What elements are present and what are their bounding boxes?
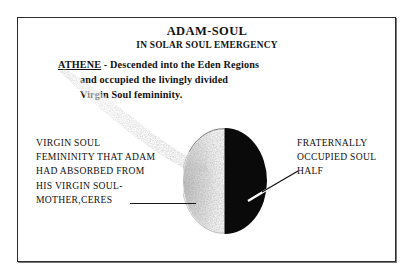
- leader-line-right: [240, 165, 302, 207]
- label-left-line-1: VIRGIN SOUL: [36, 136, 176, 150]
- label-fraternally-occupied-soul-half: FRATERNALLY OCCUPIED SOUL HALF: [297, 136, 397, 179]
- label-left-line-2: FEMININITY THAT ADAM: [36, 150, 176, 164]
- page-subtitle: IN SOLAR SOUL EMERGENCY: [0, 39, 414, 51]
- leader-line-left: [130, 203, 196, 204]
- page-title: ADAM-SOUL: [0, 24, 414, 38]
- diagram-page: ADAM-SOUL IN SOLAR SOUL EMERGENCY ATHENE…: [0, 0, 414, 279]
- label-left-line-4: HIS VIRGIN SOUL-: [36, 179, 176, 193]
- label-left-line-3: HAD ABSORBED FROM: [36, 164, 176, 178]
- label-right-line-3: HALF: [297, 164, 397, 178]
- label-right-line-1: FRATERNALLY: [297, 136, 397, 150]
- label-right-line-2: OCCUPIED SOUL: [297, 150, 397, 164]
- label-left-line-5: MOTHER,CERES: [36, 193, 176, 207]
- label-virgin-soul-femininity: VIRGIN SOUL FEMININITY THAT ADAM HAD ABS…: [36, 136, 176, 207]
